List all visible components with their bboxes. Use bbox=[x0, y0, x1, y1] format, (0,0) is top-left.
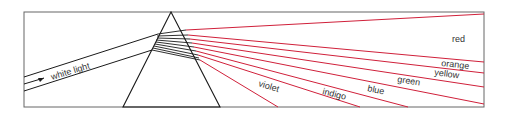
white-light-beam bbox=[24, 34, 158, 91]
prism-dispersion-diagram: white light red orange yellow green blue… bbox=[0, 0, 507, 117]
ray-red-top bbox=[186, 14, 484, 30]
label-blue: blue bbox=[367, 83, 386, 96]
label-yellow: yellow bbox=[434, 67, 461, 80]
label-green: green bbox=[397, 74, 421, 87]
label-indigo: indigo bbox=[322, 86, 348, 102]
white-light-label: white light bbox=[49, 61, 92, 83]
ray-orange bbox=[188, 35, 484, 62]
label-red: red bbox=[452, 34, 465, 44]
prism bbox=[123, 12, 220, 107]
